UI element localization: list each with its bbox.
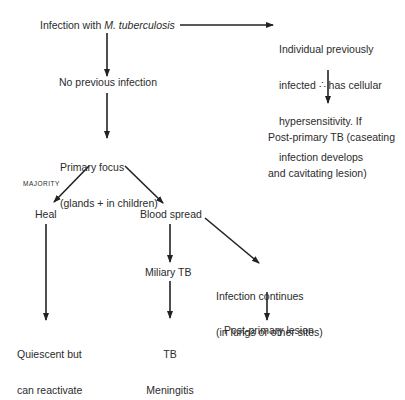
node-infection-prefix: Infection with [40, 19, 104, 31]
node-line: Infection continues [216, 290, 323, 302]
node-line: Meningitis [140, 384, 200, 396]
node-line: Primary focus [60, 161, 158, 173]
node-tb-meningitis: TB Meningitis [140, 324, 200, 400]
node-line: TB [140, 348, 200, 360]
node-line: infected ∴ has cellular [279, 79, 382, 91]
node-quiescent: Quiescent but can reactivate [17, 324, 82, 400]
node-line: Quiescent but [17, 348, 82, 360]
node-blood-spread: Blood spread [140, 208, 202, 220]
node-line: Post-primary TB (caseating [268, 131, 395, 143]
node-heal: Heal [35, 208, 57, 220]
node-post-primary-tb: Post-primary TB (caseating and cavitatin… [268, 107, 395, 191]
node-line: and cavitating lesion) [268, 167, 395, 179]
arrow-blood-spread-to-infection-continues [205, 218, 259, 263]
edge-label-majority: MAJORITY [23, 178, 60, 190]
node-miliary-tb: Miliary TB [145, 266, 191, 278]
node-infection: Infection with M. tuberculosis [40, 19, 175, 31]
node-line: Individual previously [279, 43, 382, 55]
node-infection-organism: M. tuberculosis [104, 19, 175, 31]
node-post-primary-lesion: Post-primary lesion [224, 324, 314, 336]
node-infection-continues: Infection continues (in lungs or other s… [216, 266, 323, 350]
node-no-previous-infection: No previous infection [59, 76, 157, 88]
node-line: can reactivate [17, 384, 82, 396]
